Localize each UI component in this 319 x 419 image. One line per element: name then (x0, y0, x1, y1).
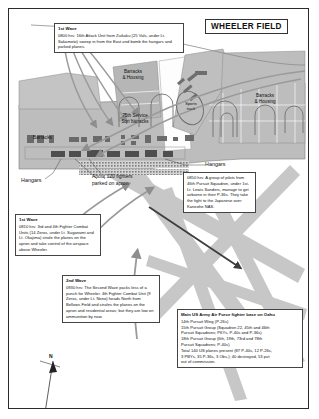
label-barracks-housing-right: Barracks & Housing (243, 93, 287, 104)
base-info-box: Main US Army Air Force fighter base on O… (177, 309, 303, 368)
label-apron-fighters: About 120 fighters parked on apron (92, 173, 170, 186)
callout-heading: 2nd Wave (66, 278, 156, 284)
callout-first-wave-0810: 1st Wave 0810 hrs: 3rd and 4th Fighter C… (15, 214, 101, 256)
callout-body: 0810 hrs: 3rd and 4th Fighter Combat Uni… (19, 224, 97, 253)
label-barracks-housing-left: Barracks & Housing (113, 69, 153, 80)
callout-heading: 1st Wave (19, 217, 97, 223)
label-barracks-row: Barracks (33, 135, 67, 141)
compass-rose (40, 361, 60, 408)
callout-body: 0850 hrs: A group of pilots from 46th Pu… (187, 175, 252, 210)
wheeler-field-map-page: WHEELER FIELD Barracks & Housing Barrack… (0, 0, 319, 419)
label-sports-track: Sports track (179, 101, 203, 111)
compass-north-label: N (49, 353, 53, 359)
label-75th-service-sqn-barracks: 75th Service Sqn barracks (113, 113, 157, 124)
base-info-heading: Main US Army Air Force fighter base on O… (181, 312, 299, 318)
base-info-lines: 14th Pursuit Wing (P-26s)15th Pursuit Gr… (181, 319, 299, 366)
callout-first-wave-0800: 1st Wave 0800 hrs: 16th Attack Unit from… (54, 23, 184, 53)
callout-pilots-airborne-0850: 0850 hrs: A group of pilots from 46th Pu… (183, 172, 256, 213)
label-hangars-left: Hangars (21, 177, 41, 183)
map-title: WHEELER FIELD (205, 19, 288, 34)
callout-heading: 1st Wave (58, 26, 180, 32)
callout-body: 0800 hrs: 16th Attack Unit from Zuikaku … (58, 33, 180, 50)
hangar-blocks (51, 150, 173, 157)
base-info-line: out of commission. (181, 359, 299, 365)
callout-second-wave-0930: 2nd Wave 0930 hrs: The Second Wave packs… (62, 275, 160, 323)
callout-body: 0930 hrs: The Second Wave packs less of … (66, 285, 156, 320)
label-hangars-right: Hangars (205, 161, 225, 167)
map-canvas: WHEELER FIELD Barracks & Housing Barrack… (9, 9, 308, 408)
